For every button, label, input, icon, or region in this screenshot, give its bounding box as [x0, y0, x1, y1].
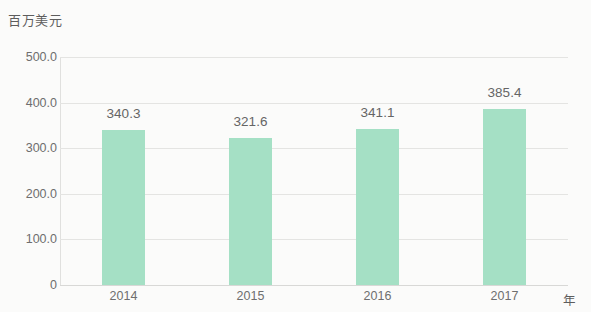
bar-chart: 百万美元 500.0400.0300.0200.0100.00 340.3321… — [0, 0, 591, 312]
y-axis-tick-label: 0 — [3, 278, 57, 292]
x-axis-tick-label: 2016 — [364, 289, 392, 303]
bar-value-label: 321.6 — [234, 114, 268, 129]
x-axis-tick-label: 2015 — [237, 289, 265, 303]
bar-value-label: 385.4 — [488, 85, 522, 100]
bar[interactable] — [229, 138, 272, 285]
bar[interactable] — [356, 129, 399, 285]
y-axis-tick-label: 500.0 — [3, 50, 57, 64]
y-axis-tick-label: 400.0 — [3, 96, 57, 110]
plot-area: 340.3321.6341.1385.4 — [60, 57, 568, 285]
bar-value-label: 341.1 — [361, 105, 395, 120]
gridline — [60, 285, 568, 286]
x-axis-unit-label: 年 — [563, 290, 576, 309]
bar[interactable] — [102, 130, 145, 285]
x-axis-tick-label: 2017 — [491, 289, 519, 303]
bar-value-label: 340.3 — [107, 106, 141, 121]
x-axis-tick-label: 2014 — [110, 289, 138, 303]
y-axis-tick-label: 100.0 — [3, 232, 57, 246]
bar[interactable] — [483, 109, 526, 285]
y-axis-tick-labels: 500.0400.0300.0200.0100.00 — [0, 0, 57, 312]
y-axis-tick-label: 300.0 — [3, 141, 57, 155]
gridline — [60, 103, 568, 104]
gridline — [60, 57, 568, 58]
y-axis-tick-label: 200.0 — [3, 187, 57, 201]
